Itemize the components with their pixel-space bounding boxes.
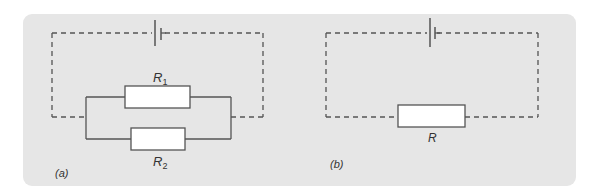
circuit-a: [52, 20, 263, 150]
label-r1: R1: [153, 70, 167, 87]
resistor-r: [398, 105, 465, 127]
battery-icon: [155, 20, 166, 46]
resistor-r2: [131, 128, 185, 150]
label-r2: R2: [153, 154, 167, 171]
label-r: R: [428, 131, 437, 145]
caption-a: (a): [55, 167, 69, 179]
circuit-b: [326, 18, 538, 127]
resistor-r1: [125, 86, 190, 108]
circuit-diagrams: R1 R2 (a) R (b): [0, 0, 598, 195]
battery-icon: [430, 18, 440, 47]
caption-b: (b): [330, 158, 344, 170]
